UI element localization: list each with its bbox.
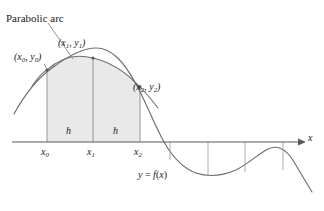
tick-label-x2: x2 [134, 147, 142, 159]
point-label-p0: (x0, y0) [14, 52, 41, 64]
shaded-region [47, 56, 140, 142]
function-label: y = f(x) [138, 170, 167, 180]
point-marker-p0 [46, 69, 49, 72]
point-label-p1: (x1, y1) [58, 38, 85, 50]
interval-label-h-left: h [66, 126, 71, 136]
tick-label-x0: x0 [41, 147, 49, 159]
point-marker-p1 [92, 57, 95, 60]
x-axis-arrowhead [298, 139, 306, 146]
interval-label-h-right: h [113, 126, 118, 136]
x-axis-label: x [308, 133, 312, 143]
leader-line-p0 [44, 64, 47, 69]
point-label-p2: (x2, y2) [133, 82, 160, 94]
parabolic-arc-label: Parabolic arc [6, 13, 64, 24]
tick-label-x1: x1 [87, 147, 95, 159]
